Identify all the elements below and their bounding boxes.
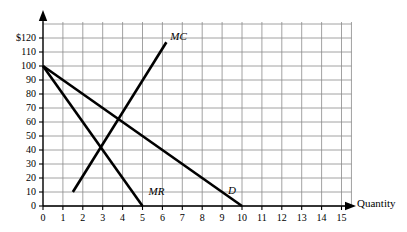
x-tick-label: 8 [192,213,212,223]
x-axis-title: Quantity [357,198,396,209]
y-tick-label: 30 [0,159,36,169]
y-tick-label: 100 [0,61,36,71]
x-tick-label: 15 [332,213,352,223]
x-tick-label: 9 [212,213,232,223]
x-tick-label: 11 [252,213,272,223]
curve-label-d: D [228,185,236,196]
curve-label-mr: MR [148,186,164,197]
axes [39,10,356,210]
x-tick-label: 2 [73,213,93,223]
y-tick-label: 50 [0,131,36,141]
curve-mc [73,42,167,192]
x-tick-label: 3 [93,213,113,223]
x-tick-label: 14 [312,213,332,223]
y-tick-label: 20 [0,173,36,183]
y-tick-label: 110 [0,47,36,57]
gridlines [43,22,351,206]
x-tick-label: 4 [113,213,133,223]
y-tick-label: 10 [0,187,36,197]
x-tick-label: 0 [33,213,53,223]
curve-label-mc: MC [170,31,187,42]
plot-area [0,0,407,232]
x-tick-label: 13 [292,213,312,223]
x-tick-label: 5 [133,213,153,223]
y-tick-label: 60 [0,117,36,127]
y-tick-label: 0 [0,201,36,211]
x-tick-label: 7 [172,213,192,223]
y-tick-label: 70 [0,103,36,113]
y-tick-label: 80 [0,89,36,99]
y-tick-label: 40 [0,145,36,155]
x-tick-label: 12 [272,213,292,223]
y-tick-label: 90 [0,75,36,85]
economics-graph: 0102030405060708090100110$120 0123456789… [0,0,407,232]
y-tick-label: $120 [0,33,36,43]
x-tick-label: 6 [152,213,172,223]
x-tick-label: 10 [232,213,252,223]
x-tick-label: 1 [53,213,73,223]
